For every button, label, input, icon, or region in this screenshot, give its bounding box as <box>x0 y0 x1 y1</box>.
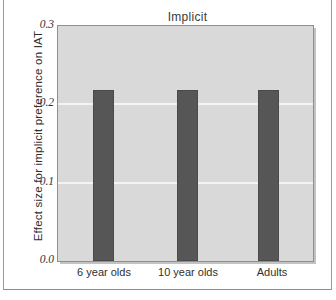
y-tick-1: 0.2 <box>10 96 54 108</box>
x-tick-6-year-olds: 6 year olds <box>60 266 148 278</box>
chart-title: Implicit <box>60 10 315 24</box>
bar-series <box>58 26 313 261</box>
bar-6-year-olds[interactable] <box>93 90 114 261</box>
y-tick-3: 0.0 <box>10 253 54 265</box>
page-border-right <box>331 0 332 290</box>
bar-adults[interactable] <box>258 90 279 261</box>
y-tick-0: 0.3 <box>10 18 54 30</box>
x-tick-adults: Adults <box>228 266 316 278</box>
chart-page: Implicit Effect size for implicit prefer… <box>0 0 336 300</box>
y-tick-2: 0.1 <box>10 175 54 187</box>
y-axis-tick-labels: 0.3 0.2 0.1 0.0 <box>8 0 54 300</box>
x-tick-10-year-olds: 10 year olds <box>142 266 234 278</box>
plot-area <box>57 25 314 262</box>
page-border-left <box>3 0 4 290</box>
bar-10-year-olds[interactable] <box>177 90 198 261</box>
